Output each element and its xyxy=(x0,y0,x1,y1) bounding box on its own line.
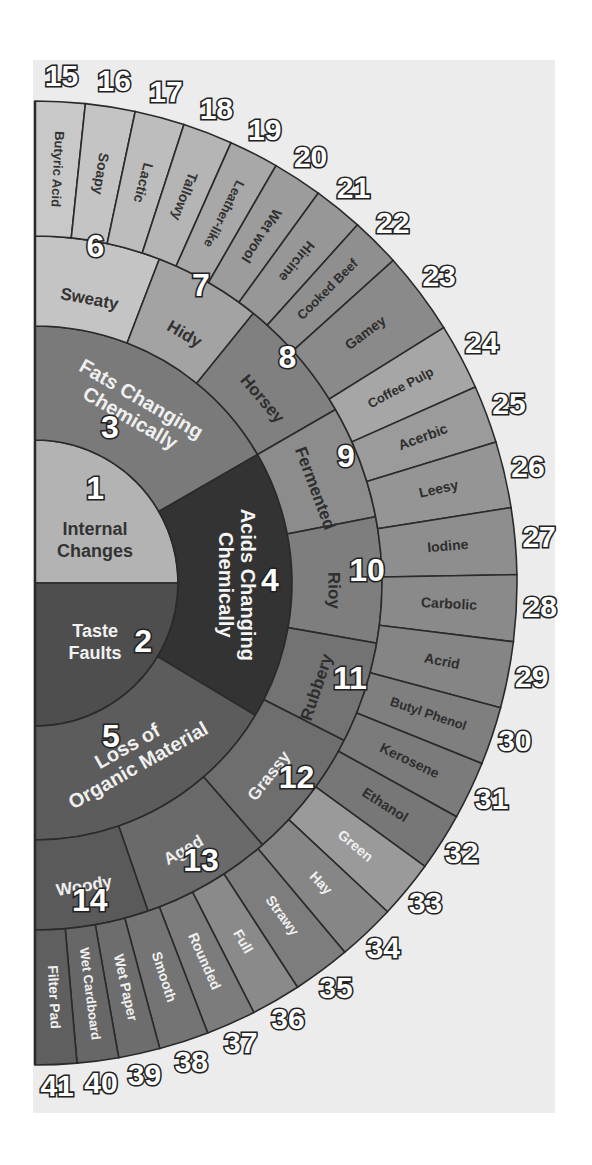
svg-text:Acids Changing: Acids Changing xyxy=(237,509,259,661)
number-39: 39 xyxy=(128,1058,161,1091)
number-33: 33 xyxy=(409,886,442,919)
number-5: 5 xyxy=(102,718,120,754)
number-21: 21 xyxy=(337,171,370,204)
number-30: 30 xyxy=(498,724,531,757)
number-22: 22 xyxy=(376,206,409,239)
number-11: 11 xyxy=(333,660,367,696)
number-24: 24 xyxy=(465,326,499,359)
number-18: 18 xyxy=(200,92,233,125)
number-29: 29 xyxy=(515,660,548,693)
number-17: 17 xyxy=(149,75,182,108)
number-3: 3 xyxy=(101,409,119,445)
number-2: 2 xyxy=(134,623,152,659)
label-filter-pad: Filter Pad xyxy=(45,965,64,1029)
number-15: 15 xyxy=(45,59,78,92)
number-23: 23 xyxy=(422,259,455,292)
svg-text:Internal: Internal xyxy=(63,519,128,539)
label-carbolic: Carbolic xyxy=(421,594,478,613)
number-34: 34 xyxy=(367,931,401,964)
number-31: 31 xyxy=(475,782,508,815)
number-27: 27 xyxy=(522,520,555,553)
flavor-wheel: InternalChangesTasteFaultsFats ChangingC… xyxy=(0,0,592,1165)
number-13: 13 xyxy=(183,842,219,878)
number-10: 10 xyxy=(349,552,385,588)
number-38: 38 xyxy=(175,1045,208,1078)
number-19: 19 xyxy=(248,113,281,146)
number-32: 32 xyxy=(445,836,478,869)
label-rioy: Rioy xyxy=(324,572,343,610)
number-8: 8 xyxy=(279,339,297,375)
number-41: 41 xyxy=(40,1069,73,1102)
number-9: 9 xyxy=(337,438,355,474)
svg-text:Faults: Faults xyxy=(69,643,122,663)
svg-text:Chemically: Chemically xyxy=(215,532,237,638)
number-40: 40 xyxy=(84,1066,117,1099)
number-36: 36 xyxy=(271,1002,304,1035)
number-28: 28 xyxy=(524,590,557,623)
svg-text:Changes: Changes xyxy=(57,541,133,561)
number-20: 20 xyxy=(294,140,327,173)
number-12: 12 xyxy=(279,759,315,795)
number-6: 6 xyxy=(87,228,105,264)
number-35: 35 xyxy=(319,971,352,1004)
number-37: 37 xyxy=(224,1026,257,1059)
number-26: 26 xyxy=(511,450,544,483)
number-1: 1 xyxy=(86,470,104,506)
number-14: 14 xyxy=(72,882,108,918)
number-16: 16 xyxy=(97,64,130,97)
number-4: 4 xyxy=(261,562,279,598)
number-7: 7 xyxy=(192,267,210,303)
svg-text:Taste: Taste xyxy=(72,621,118,641)
number-25: 25 xyxy=(492,387,525,420)
